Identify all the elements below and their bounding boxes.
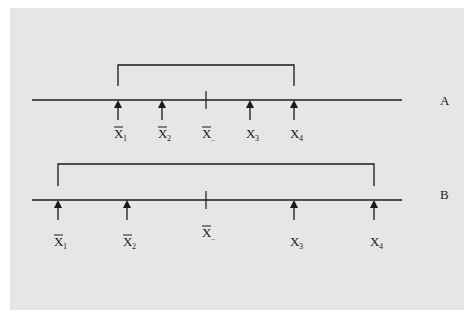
row-b-grand-mean-label: X.. xyxy=(202,225,215,242)
row-a-mean-label-1-subscript: 1 xyxy=(123,134,127,143)
row-b-mean-label-4: X4 xyxy=(370,234,383,251)
row-a-arrow-head-3 xyxy=(246,100,254,108)
row-b-grand-mean-label-subscript: .. xyxy=(211,233,215,242)
row-a-label: A xyxy=(440,93,450,108)
row-b-arrow-head-2 xyxy=(123,200,131,208)
row-b-mean-label-3-subscript: 3 xyxy=(299,242,303,251)
row-a-grand-mean-label: X.. xyxy=(202,126,215,143)
row-b-range-bracket xyxy=(58,164,374,186)
dispersion-diagram: X..X1X2X3X4AX..X1X2X3X4B xyxy=(0,0,474,325)
row-a-range-bracket xyxy=(118,65,294,86)
row-a-arrow-head-1 xyxy=(114,100,122,108)
row-a-mean-label-2-subscript: 2 xyxy=(167,134,171,143)
row-a-mean-label-4-subscript: 4 xyxy=(299,134,303,143)
row-b-arrow-head-3 xyxy=(290,200,298,208)
row-a-mean-label-2: X2 xyxy=(158,126,171,143)
row-b-arrow-head-1 xyxy=(54,200,62,208)
row-b-arrow-head-4 xyxy=(370,200,378,208)
row-b-mean-label-1: X1 xyxy=(54,234,67,251)
row-b-mean-label-3: X3 xyxy=(290,234,303,251)
row-b-mean-label-1-subscript: 1 xyxy=(63,242,67,251)
row-a-mean-label-1: X1 xyxy=(114,126,127,143)
row-b-mean-label-4-subscript: 4 xyxy=(379,242,383,251)
row-a-arrow-head-2 xyxy=(158,100,166,108)
row-a-grand-mean-label-subscript: .. xyxy=(211,134,215,143)
row-b-mean-label-2-subscript: 2 xyxy=(132,242,136,251)
row-a-mean-label-3-subscript: 3 xyxy=(255,134,259,143)
row-b-mean-label-2: X2 xyxy=(123,234,136,251)
row-a-mean-label-4: X4 xyxy=(290,126,303,143)
row-a-mean-label-3: X3 xyxy=(246,126,259,143)
row-a-arrow-head-4 xyxy=(290,100,298,108)
row-b-label: B xyxy=(440,187,449,202)
